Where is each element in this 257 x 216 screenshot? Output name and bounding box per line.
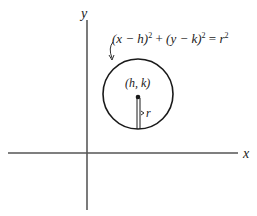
y-axis-label: y (79, 6, 88, 21)
circle (103, 59, 173, 129)
circle-equation: (x − h)2 + (y − k)2 = r2 (112, 31, 228, 46)
circle-diagram: y x (h, k) r (x − h)2 + (y − k)2 = r2 (0, 0, 257, 216)
radius-label: r (146, 106, 151, 120)
radius-brace (141, 111, 144, 115)
center-label: (h, k) (125, 76, 150, 90)
x-axis-label: x (242, 146, 250, 161)
